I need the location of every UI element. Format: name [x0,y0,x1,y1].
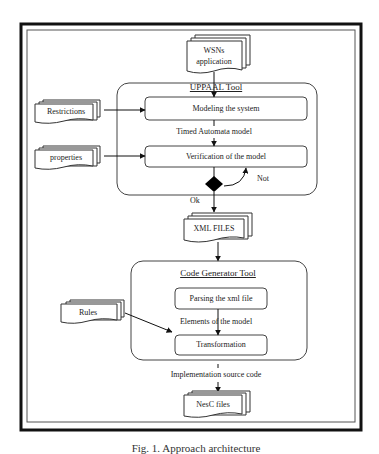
decision-not-label: Not [257,174,269,183]
decision-diamond-icon [205,176,223,192]
code-generator-title: Code Generator Tool [180,268,256,278]
wsn-label-line1: WSNs [204,46,225,55]
wsn-label-line2: application [196,57,232,66]
xml-files-label: XML FILES [194,224,235,233]
elements-model-label: Elements of the model [180,317,252,326]
transformation-step-label: Transformation [196,340,245,349]
implementation-source-label: Implementation source code [171,370,262,379]
nesc-files-label: NesC files [196,400,230,409]
ok-label: Ok [190,196,200,205]
timed-automata-label: Timed Automata model [176,127,252,136]
restrictions-label: Restrictions [47,107,85,116]
properties-label: properties [50,153,82,162]
rules-label: Rules [79,308,97,317]
verification-step-label: Verification of the model [186,152,266,161]
modeling-step-label: Modeling the system [192,104,259,113]
figure-caption: Fig. 1. Approach architecture [132,442,261,454]
uppaal-tool-title: UPPAAL Tool [190,82,242,92]
parsing-step-label: Parsing the xml file [190,294,253,303]
